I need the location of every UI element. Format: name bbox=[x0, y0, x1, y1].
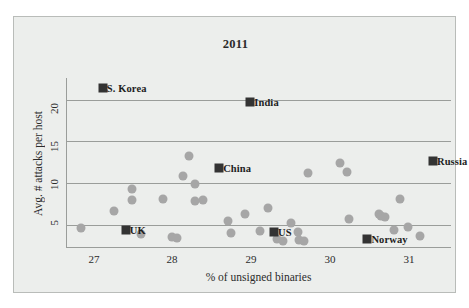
data-point bbox=[381, 213, 390, 222]
y-axis-label: Avg. # attacks per host bbox=[30, 79, 46, 249]
chart-panel: 2011 Avg. # attacks per host 20 15 10 5 … bbox=[13, 16, 456, 293]
data-point bbox=[240, 209, 249, 218]
data-point bbox=[109, 206, 118, 215]
gridline-y-10 bbox=[66, 183, 451, 184]
y-tick-15: 15 bbox=[48, 141, 60, 152]
x-tick-31: 31 bbox=[404, 253, 415, 265]
country-label-norway: Norway bbox=[371, 233, 407, 244]
data-point bbox=[336, 159, 345, 168]
data-point bbox=[342, 168, 351, 177]
y-tick-20: 20 bbox=[48, 103, 60, 114]
data-point bbox=[190, 180, 199, 189]
data-point bbox=[227, 229, 236, 238]
data-point bbox=[127, 184, 136, 193]
data-point bbox=[127, 196, 136, 205]
data-point bbox=[279, 237, 288, 246]
data-point bbox=[198, 196, 207, 205]
country-label-india: India bbox=[254, 97, 278, 108]
country-label-russia: Russia bbox=[437, 155, 467, 166]
y-tick-5: 5 bbox=[48, 220, 60, 226]
data-point bbox=[76, 223, 85, 232]
data-point bbox=[256, 227, 265, 236]
data-point bbox=[172, 233, 181, 242]
data-point bbox=[415, 231, 424, 240]
country-label-s-korea: S. Korea bbox=[107, 83, 147, 94]
data-point bbox=[179, 171, 188, 180]
data-point bbox=[303, 169, 312, 178]
country-label-uk: UK bbox=[130, 224, 146, 235]
chart-title: 2011 bbox=[14, 37, 457, 52]
data-point bbox=[344, 214, 353, 223]
data-point bbox=[299, 236, 308, 245]
x-tick-28: 28 bbox=[167, 253, 178, 265]
y-tick-10: 10 bbox=[48, 179, 60, 190]
plot-area: S. KoreaIndiaChinaRussiaUKUSNorway bbox=[66, 78, 451, 248]
x-axis-label: % of unsigned binaries bbox=[66, 271, 451, 283]
x-tick-27: 27 bbox=[89, 253, 100, 265]
x-tick-29: 29 bbox=[246, 253, 257, 265]
x-tick-30: 30 bbox=[325, 253, 336, 265]
data-point bbox=[404, 222, 413, 231]
data-point bbox=[264, 204, 273, 213]
data-point bbox=[396, 194, 405, 203]
country-label-us: US bbox=[278, 227, 292, 238]
data-point bbox=[158, 194, 167, 203]
data-point bbox=[224, 216, 233, 225]
data-point bbox=[184, 152, 193, 161]
figure-root: 2011 Avg. # attacks per host 20 15 10 5 … bbox=[0, 0, 469, 308]
x-axis-line bbox=[66, 247, 451, 248]
country-label-china: China bbox=[223, 163, 251, 174]
y-axis-line bbox=[66, 78, 67, 248]
gridline-y-15 bbox=[66, 141, 451, 142]
